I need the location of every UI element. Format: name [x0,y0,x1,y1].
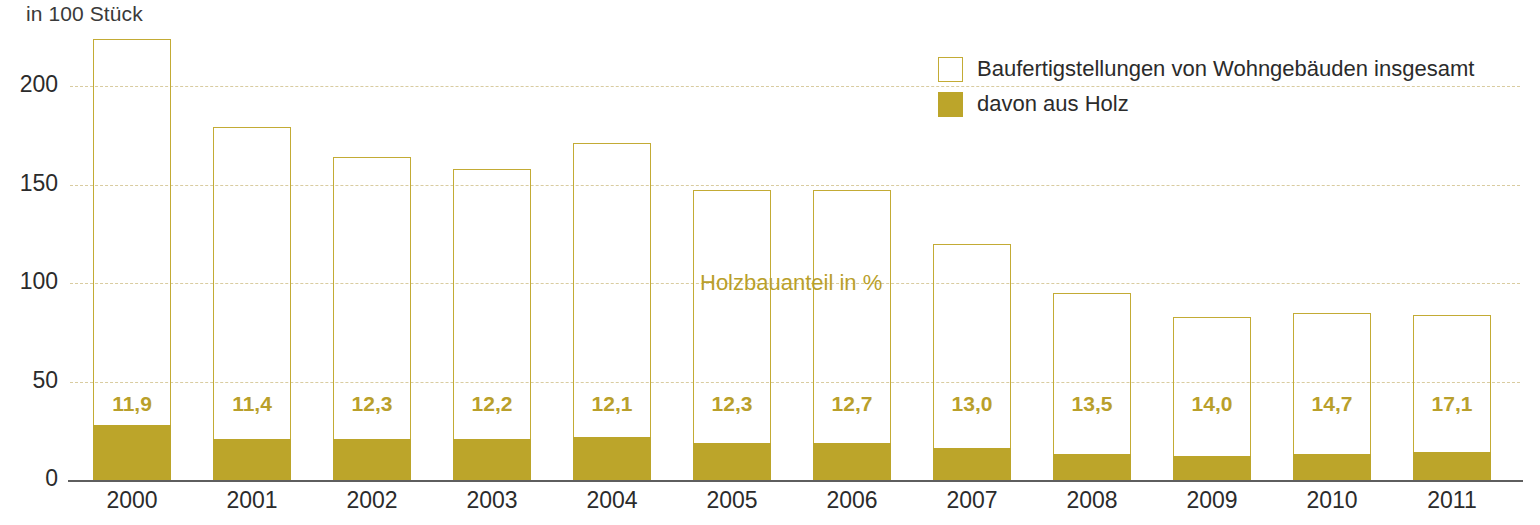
y-axis-tick-150: 150 [0,170,58,197]
bar-total-2004[interactable] [573,143,651,480]
x-axis-tick-2003: 2003 [443,487,541,514]
x-axis-tick-2009: 2009 [1163,487,1261,514]
bar-pct-label-2007: 13,0 [933,392,1011,416]
x-axis-tick-2001: 2001 [203,487,301,514]
bar-wood-2006[interactable] [813,443,891,480]
x-axis-tick-2002: 2002 [323,487,421,514]
legend-swatch-total-icon [938,57,963,82]
y-axis-tick-0: 0 [0,465,58,492]
bar-pct-label-2003: 12,2 [453,392,531,416]
x-axis-tick-2005: 2005 [683,487,781,514]
bar-total-2002[interactable] [333,157,411,480]
bar-wood-2007[interactable] [933,448,1011,480]
bar-wood-2004[interactable] [573,437,651,480]
bar-pct-label-2008: 13,5 [1053,392,1131,416]
bar-pct-label-2005: 12,3 [693,392,771,416]
bar-wood-2011[interactable] [1413,452,1491,480]
x-axis-tick-2007: 2007 [923,487,1021,514]
x-axis-tick-2008: 2008 [1043,487,1141,514]
legend-item-wood[interactable]: davon aus Holz [938,91,1474,117]
bar-wood-2009[interactable] [1173,456,1251,480]
bar-total-2003[interactable] [453,169,531,480]
bar-pct-label-2009: 14,0 [1173,392,1251,416]
bar-pct-label-2000: 11,9 [93,392,171,416]
bar-total-2001[interactable] [213,127,291,480]
chart-root: in 100 Stück 05010015020011,9200011,4200… [0,0,1540,525]
bar-pct-label-2011: 17,1 [1413,392,1491,416]
bar-total-2007[interactable] [933,244,1011,480]
x-axis-tick-2011: 2011 [1403,487,1501,514]
bar-wood-2010[interactable] [1293,454,1371,480]
bar-wood-2000[interactable] [93,425,171,480]
bar-wood-2005[interactable] [693,443,771,480]
bar-pct-label-2002: 12,3 [333,392,411,416]
bar-total-2006[interactable] [813,190,891,480]
axis-baseline [68,480,1523,482]
chart-legend: Baufertigstellungen von Wohngebäuden ins… [938,56,1474,117]
x-axis-tick-2010: 2010 [1283,487,1381,514]
bar-wood-2002[interactable] [333,439,411,480]
bar-pct-label-2001: 11,4 [213,392,291,416]
bar-wood-2003[interactable] [453,439,531,480]
legend-label-wood: davon aus Holz [977,91,1129,117]
bar-wood-2001[interactable] [213,439,291,480]
bar-pct-label-2004: 12,1 [573,392,651,416]
bar-total-2008[interactable] [1053,293,1131,480]
y-axis-tick-100: 100 [0,268,58,295]
legend-label-total: Baufertigstellungen von Wohngebäuden ins… [977,56,1474,82]
bar-pct-label-2010: 14,7 [1293,392,1371,416]
x-axis-tick-2000: 2000 [83,487,181,514]
y-axis-tick-200: 200 [0,71,58,98]
bar-pct-label-2006: 12,7 [813,392,891,416]
holzbauanteil-annotation: Holzbauanteil in % [700,270,882,296]
x-axis-tick-2004: 2004 [563,487,661,514]
bar-total-2005[interactable] [693,190,771,480]
legend-item-total[interactable]: Baufertigstellungen von Wohngebäuden ins… [938,56,1474,82]
x-axis-tick-2006: 2006 [803,487,901,514]
bar-wood-2008[interactable] [1053,454,1131,480]
y-axis-tick-50: 50 [0,367,58,394]
legend-swatch-wood-icon [938,92,963,117]
